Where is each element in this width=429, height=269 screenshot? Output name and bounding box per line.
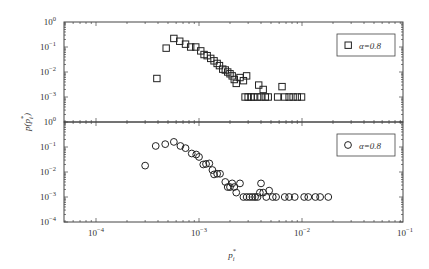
x-tick-label: 10−2 [294,226,310,238]
data-point-square [298,94,304,100]
y-tick-label: 100 [44,115,56,127]
x-tick-label: 10−3 [191,226,207,238]
y-tick-label: 10−4 [40,215,57,227]
data-point-square [163,45,169,51]
data-point-circle [305,194,312,201]
data-point-circle [188,150,195,157]
y-tick-label: 10−2 [40,65,56,77]
data-point-circle [209,167,216,174]
y-tick-label: 10−3 [40,190,56,202]
data-point-square [282,94,288,100]
data-point-square [154,75,160,81]
data-point-circle [152,143,159,150]
x-tick-label: 10−4 [88,226,105,238]
legend-label: α=0.8 [359,41,382,51]
data-point-circle [317,194,324,201]
data-point-circle [237,180,244,187]
y-tick-label: 10−1 [40,140,56,152]
y-tick-label: 10−3 [40,90,56,102]
chart-figure: 10010−110−210−3α=0.810010−110−210−310−4α… [0,0,429,269]
data-point-square [290,94,296,100]
y-axis-label: p(pi*) [19,113,34,132]
plot-canvas: 10010−110−210−3α=0.810010−110−210−310−4α… [0,0,429,269]
y-tick-label: 100 [44,15,56,27]
data-point-circle [162,141,169,148]
x-axis-label: pi* [227,247,236,262]
data-point-circle [170,138,177,145]
data-point-circle [266,187,273,194]
data-point-square [286,94,292,100]
legend-label: α=0.8 [359,141,382,151]
x-tick-label: 10−1 [397,226,413,238]
data-point-circle [325,194,332,201]
data-point-square [294,94,300,100]
data-point-circle [258,180,265,187]
data-point-square [279,83,285,89]
data-point-circle [142,162,149,169]
data-point-square [274,94,280,100]
data-point-square [256,82,262,88]
data-point-square [260,86,266,92]
y-tick-label: 10−2 [40,165,56,177]
y-tick-label: 10−1 [40,40,56,52]
